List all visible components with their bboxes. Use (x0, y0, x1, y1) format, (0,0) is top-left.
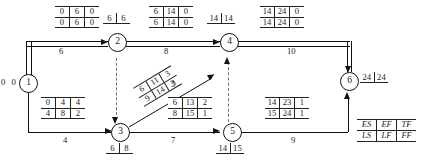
activity-2-4-tf: 0 (179, 7, 193, 18)
activity-1-2-lf: 6 (70, 18, 85, 28)
activity-1-3-ff: 2 (71, 109, 85, 119)
node-2-label: 2 (115, 36, 120, 46)
node-3-late: 8 (120, 143, 133, 153)
activity-3-5-lf: 15 (183, 109, 198, 119)
edge-1-3-vertical (28, 90, 29, 132)
activity-1-3-ls: 4 (41, 109, 56, 119)
activity-2-4-es: 6 (149, 7, 164, 18)
activity-4-6-tf: 0 (290, 7, 304, 18)
dummy-2-3 (116, 58, 117, 120)
activity-5-6-lf: 24 (280, 109, 295, 119)
activity-3-5-tf: 2 (198, 98, 212, 109)
arrowhead-3-5 (213, 128, 220, 134)
node-3[interactable]: 3 (111, 123, 130, 142)
activity-4-6-ef: 24 (275, 7, 290, 18)
node-2-late: 6 (117, 13, 130, 23)
legend-ef: EF (377, 120, 397, 131)
node-1[interactable]: 1 (19, 74, 38, 93)
node-2-values: 6 6 (103, 13, 130, 24)
activity-3-5-ff: 1 (198, 109, 212, 119)
activity-1-2-ff: 0 (85, 18, 99, 28)
activity-1-2-tf: 0 (85, 7, 99, 18)
node-4-label: 4 (227, 36, 232, 46)
activity-1-2-duration: 6 (58, 47, 64, 56)
node-3-values: 6 8 (106, 143, 133, 154)
arrowhead-3-4 (207, 72, 216, 81)
node-6-values: 24 24 (360, 72, 388, 83)
node-2-early: 6 (103, 13, 117, 23)
node-6-label: 6 (347, 75, 352, 85)
arrowhead-5-6 (344, 92, 350, 99)
node-3-label: 3 (118, 126, 123, 136)
activity-2-4-ef: 14 (164, 7, 179, 18)
legend: ES EF TF LS LF FF (357, 119, 416, 142)
node-1-label: 1 (26, 77, 31, 87)
node-4-late: 14 (222, 13, 236, 23)
activity-2-4-duration: 8 (163, 47, 169, 56)
activity-1-2-ls: 0 (55, 18, 70, 28)
arrowhead-1-2 (101, 39, 108, 45)
activity-3-5-ef: 13 (183, 98, 198, 109)
activity-3-4-duration: 5 (170, 80, 176, 89)
node-5-late: 15 (231, 143, 245, 153)
legend-es: ES (357, 120, 377, 131)
node-4[interactable]: 4 (220, 33, 239, 52)
edge-5-6-horizontal (240, 132, 348, 133)
node-4-values: 14 14 (207, 13, 235, 24)
activity-3-5-duration: 7 (170, 136, 176, 145)
activity-5-6-tf: 1 (295, 98, 309, 109)
node-4-early: 14 (207, 13, 222, 23)
activity-4-6-lf: 24 (275, 18, 290, 28)
activity-1-3-table: 0 4 4 4 8 2 (41, 97, 85, 119)
activity-1-3-es: 0 (41, 98, 56, 109)
edge-5-6-vertical (348, 97, 349, 132)
node-3-early: 6 (106, 143, 120, 153)
activity-1-2-table: 0 6 0 0 6 0 (55, 6, 99, 28)
activity-3-5-table: 6 13 2 8 15 1 (168, 97, 212, 119)
node-6-late: 24 (375, 72, 389, 82)
legend-ff: FF (397, 131, 416, 141)
activity-5-6-es: 14 (265, 98, 280, 109)
activity-4-6-ff: 0 (290, 18, 304, 28)
activity-5-6-ff: 1 (295, 109, 309, 119)
activity-4-6-es: 14 (260, 7, 275, 18)
activity-3-5-ls: 8 (168, 109, 183, 119)
arrowhead-dummy-5-4 (224, 57, 230, 64)
edge-1-3-horizontal (28, 132, 112, 133)
node-6-early: 24 (360, 72, 375, 82)
node-2[interactable]: 2 (108, 33, 127, 52)
network-diagram: 1 2 3 4 5 6 0 0 6 6 6 8 14 14 14 15 24 2… (0, 0, 432, 163)
activity-2-4-ff: 0 (179, 18, 193, 28)
edge-1-2-horizontal (26, 41, 108, 47)
legend-lf: LF (377, 131, 397, 141)
activity-1-2-ef: 6 (70, 7, 85, 18)
activity-1-3-ef: 4 (56, 98, 71, 109)
edge-2-4 (124, 41, 220, 47)
activity-4-6-ls: 14 (260, 18, 275, 28)
activity-3-5-es: 6 (168, 98, 183, 109)
activity-2-4-table: 6 14 0 6 14 0 (149, 6, 193, 28)
node-5-early: 14 (216, 143, 231, 153)
activity-1-3-lf: 8 (56, 109, 71, 119)
legend-tf: TF (397, 120, 416, 131)
legend-ls: LS (357, 131, 377, 141)
activity-1-2-es: 0 (55, 7, 70, 18)
node-5[interactable]: 5 (223, 123, 242, 142)
activity-4-6-duration: 10 (286, 47, 297, 56)
arrowhead-2-4 (213, 39, 220, 45)
activity-1-3-duration: 4 (62, 136, 68, 145)
node-5-values: 14 15 (216, 143, 244, 154)
node-6[interactable]: 6 (340, 72, 359, 91)
node-1-value: 0 0 (1, 78, 18, 87)
activity-5-6-ls: 15 (265, 109, 280, 119)
activity-5-6-ef: 23 (280, 98, 295, 109)
activity-5-6-table: 14 23 1 15 24 1 (265, 97, 309, 119)
node-5-label: 5 (230, 126, 235, 136)
activity-1-3-tf: 4 (71, 98, 85, 109)
dummy-5-4 (228, 62, 229, 122)
activity-2-4-lf: 14 (164, 18, 179, 28)
activity-4-6-table: 14 24 0 14 24 0 (260, 6, 304, 28)
activity-5-6-duration: 9 (290, 136, 296, 145)
edge-3-5 (128, 132, 220, 133)
activity-2-4-ls: 6 (149, 18, 164, 28)
